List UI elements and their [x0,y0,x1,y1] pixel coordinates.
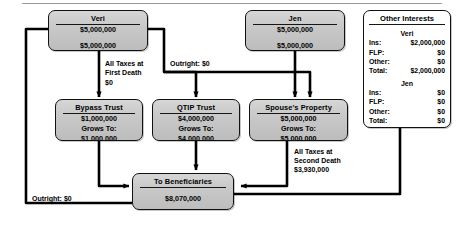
other-interests-row: Other: $0 [364,57,450,66]
other-interests-key: Ins: [369,88,381,97]
node-spouses-property-title: Spouse's Property [250,100,347,112]
node-jen-title: Jen [246,11,344,23]
node-spouses-property-grows-value: $5,000,000 [250,134,347,141]
other-interests-person-veri: Veri [364,29,450,38]
other-interests-value: $2,000,000 [411,38,446,47]
node-bypass-trust-value: $1,000,000 [56,114,142,124]
other-interests-value: $0 [437,57,445,66]
other-interests-key: Ins: [369,38,381,47]
label-all-taxes-first-death-value: $0 [105,78,113,87]
other-interests-key: Total: [369,116,387,125]
node-spouses-property-value: $5,000,000 [250,114,347,124]
node-veri-value: $5,000,000 [49,25,147,35]
label-all-taxes-second-death-line1: All Taxes at [294,147,332,156]
node-bypass-trust-title: Bypass Trust [56,100,142,112]
other-interests-value: $0 [437,107,445,116]
label-all-taxes-second-death-line2: Second Death [294,156,341,165]
top-divider-rule [22,3,442,4]
other-interests-key: FLP: [369,97,384,106]
node-to-beneficiaries-value: $8,070,000 [133,194,233,204]
node-qtip-trust-value: $4,000,000 [153,114,239,124]
edge-veri-to-qtip [164,72,196,97]
label-all-taxes-second-death-value: $3,930,000 [294,165,329,174]
other-interests-row: Ins: $0 [364,88,450,97]
other-interests-key: Total: [369,66,387,75]
node-to-beneficiaries-title: To Beneficiaries [133,174,233,186]
other-interests-row: Total: $0 [364,116,450,125]
other-interests-key: Other: [369,57,390,66]
node-spouses-property[interactable]: Spouse's Property $5,000,000 Grows To: $… [249,99,348,141]
other-interests-person-jen: Jen [364,79,450,88]
node-bypass-trust-grows-value: $1,000,000 [56,134,142,141]
other-interests-row: FLP: $0 [364,97,450,106]
node-bypass-trust-grows-label: Grows To: [56,124,142,134]
other-interests-panel[interactable]: Other Interests Veri Ins: $2,000,000 FLP… [363,10,451,128]
node-spouses-property-grows-label: Grows To: [250,124,347,134]
edge-spouse-to-beneficiaries [241,141,287,186]
diagram-canvas: Veri $5,000,000 $5,000,000 Jen $5,000,00… [0,0,459,237]
other-interests-value: $0 [437,97,445,106]
node-veri[interactable]: Veri $5,000,000 $5,000,000 [48,10,148,51]
other-interests-value: $0 [437,48,445,57]
other-interests-row: FLP: $0 [364,48,450,57]
other-interests-rule [369,24,445,25]
node-veri-title: Veri [49,11,147,23]
label-all-taxes-first-death-line1: All Taxes at [105,59,143,68]
other-interests-title: Other Interests [364,11,450,24]
label-all-taxes-first-death-line2: First Death [105,68,142,77]
node-jen-value-2: $5,000,000 [246,41,344,51]
other-interests-key: Other: [369,107,390,116]
other-interests-value: $0 [437,116,445,125]
other-interests-row: Ins: $2,000,000 [364,38,450,47]
node-jen[interactable]: Jen $5,000,000 $5,000,000 [245,10,345,51]
node-qtip-trust-grows-label: Grows To: [153,124,239,134]
node-qtip-trust-grows-value: $4,000,000 [153,134,239,141]
label-outright-top: Outright: $0 [170,59,210,68]
edge-bypass-to-beneficiaries [99,141,129,186]
other-interests-key: FLP: [369,48,384,57]
node-to-beneficiaries[interactable]: To Beneficiaries $8,070,000 [132,173,234,210]
other-interests-row: Other: $0 [364,107,450,116]
other-interests-row: Total: $2,000,000 [364,66,450,75]
node-qtip-trust-title: QTIP Trust [153,100,239,112]
node-bypass-trust[interactable]: Bypass Trust $1,000,000 Grows To: $1,000… [55,99,143,141]
other-interests-value: $2,000,000 [411,66,446,75]
node-jen-value: $5,000,000 [246,25,344,35]
node-qtip-trust[interactable]: QTIP Trust $4,000,000 Grows To: $4,000,0… [152,99,240,141]
node-veri-value-2: $5,000,000 [49,41,147,51]
label-outright-bottom: Outright: $0 [32,194,72,203]
other-interests-value: $0 [437,88,445,97]
